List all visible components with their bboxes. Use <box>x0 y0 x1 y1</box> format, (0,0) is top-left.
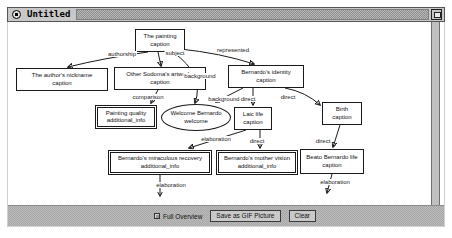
node-n7[interactable]: Laic lifecaption <box>234 107 272 130</box>
window-zoom-icon[interactable] <box>431 9 442 20</box>
edge-n8-n11 <box>333 125 340 147</box>
node-n8[interactable]: Birthcaption <box>322 102 362 125</box>
checkbox-indicator-icon[interactable] <box>154 213 160 219</box>
node-n2[interactable]: The author's nicknamecaption <box>16 68 108 91</box>
node-label: caption <box>322 162 341 170</box>
concept-map-canvas[interactable]: The paintingcaptionThe author's nickname… <box>8 22 445 206</box>
window-menu-icon[interactable] <box>12 10 21 19</box>
node-label: additional_info <box>107 117 146 125</box>
node-label: Bernardo's identity <box>241 69 291 77</box>
full-overview-checkbox[interactable]: Full Overview <box>154 213 202 220</box>
node-label: caption <box>332 114 351 122</box>
edge-label-authorship: authorship <box>107 51 137 57</box>
edge-label-elaboration: elaboration <box>200 136 232 142</box>
window-title: Untitled <box>23 8 74 21</box>
node-label: caption <box>150 41 169 49</box>
node-n4[interactable]: Bernardo's identitycaption <box>228 65 304 88</box>
node-label: caption <box>150 79 169 87</box>
edge-label-subject: subject <box>164 50 185 56</box>
window-body: The paintingcaptionThe author's nickname… <box>7 22 445 227</box>
vertical-scrollbar[interactable] <box>431 22 440 206</box>
node-n6[interactable]: Welcome Bernardowelcome <box>161 104 231 131</box>
save-gif-button[interactable]: Save as GIF Picture <box>210 210 280 223</box>
full-overview-label: Full Overview <box>163 213 202 220</box>
clear-button[interactable]: Clear <box>289 210 317 223</box>
titlebar[interactable]: Untitled <box>7 7 445 22</box>
node-label: Laic life <box>243 111 263 119</box>
node-label: caption <box>256 77 275 85</box>
node-n1[interactable]: The paintingcaption <box>135 29 185 52</box>
node-label: Beato Bernardo life <box>306 154 357 162</box>
edge-label-elaboration: elaboration <box>155 182 187 188</box>
edge-label-direct: direct <box>249 138 266 144</box>
edge-label-direct: direct <box>280 94 297 100</box>
node-n11[interactable]: Beato Bernardo lifecaption <box>300 149 364 174</box>
titlebar-drag-handle[interactable] <box>76 9 429 20</box>
edge-label-background: background <box>207 96 240 102</box>
bottom-toolbar: Full Overview Save as GIF Picture Clear <box>8 205 444 226</box>
node-label: Bernardo's mother vision <box>224 155 290 163</box>
node-n9[interactable]: Bernardo's miraculous recoveryadditional… <box>108 150 212 175</box>
node-label: caption <box>52 80 71 88</box>
node-label: Painting quality <box>106 110 147 118</box>
node-label: Birth <box>336 106 348 114</box>
edge-label-direct: direct <box>240 96 257 102</box>
node-n5[interactable]: Painting qualityadditional_info <box>95 105 157 129</box>
edge-n1-n3 <box>158 52 161 66</box>
node-label: additional_info <box>238 163 277 171</box>
node-label: Bernardo's miraculous recovery <box>118 155 202 163</box>
node-n10[interactable]: Bernardo's mother visionadditional_info <box>216 150 298 175</box>
edge-label-direct: direct <box>315 138 332 144</box>
edge-label-represented: represented <box>216 47 250 53</box>
node-label: The painting <box>143 33 176 41</box>
node-label: The author's nickname <box>32 72 93 80</box>
app-window: Untitled The paintingcaptionThe author's… <box>7 7 445 227</box>
edge-label-background: background <box>183 73 216 79</box>
node-label: welcome <box>184 118 208 126</box>
edge-label-comparison: comparison <box>131 94 164 100</box>
node-label: additional_info <box>141 163 180 171</box>
node-label: Welcome Bernardo <box>170 110 221 118</box>
edge-label-elaboration: elaboration <box>319 179 351 185</box>
node-label: caption <box>243 119 262 127</box>
